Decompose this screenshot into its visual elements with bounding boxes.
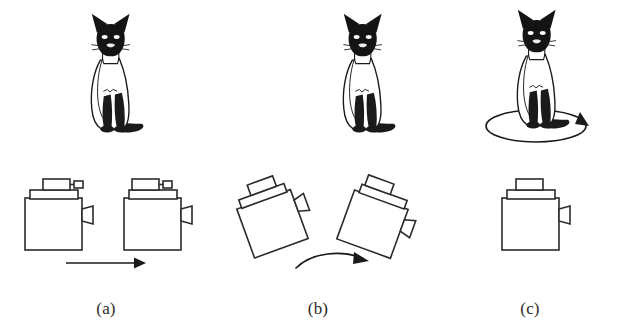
arc-arrow-head [353,252,369,264]
camera-top-box [43,179,70,190]
camera-top-plate [507,190,555,199]
camera-lens-flap [82,206,93,224]
camera-lens-flap [559,206,570,224]
cat-eye-right [114,35,120,39]
camera-body [25,198,82,250]
camera-viewfinder-nub [74,181,83,188]
camera-left [25,179,93,250]
cat-front-legs [529,91,539,124]
camera-viewfinder-nub [163,181,172,188]
arc-shaft [296,253,362,268]
cat-eye-left [102,35,108,39]
panel-c: (c) [424,0,636,327]
translation-arrow [66,258,146,269]
figure-root: (a) [0,0,636,327]
cat-paw-right [366,125,380,132]
camera-top-plate [129,190,177,199]
cat-paw-left [352,125,366,132]
camera-top-box [132,179,159,190]
panel-c-artwork [424,0,636,300]
cat-paw-left [526,121,540,128]
cat-eye-right [366,35,372,39]
camera-left-tilted [230,168,318,258]
siamese-cat-illustration [91,14,143,133]
panel-b-artwork [212,0,424,300]
cat-eye-left [528,31,534,35]
cat-paw-left [100,125,114,132]
camera-top-plate [30,190,78,199]
arrow-head [134,258,146,269]
camera-right [124,179,192,250]
camera-body [124,198,181,250]
cat-paw-right [114,125,128,132]
camera-body [502,198,559,250]
cat-front-legs [355,95,365,128]
panel-b: (b) [212,0,424,327]
panel-b-label: (b) [212,300,424,317]
panel-a-artwork [0,0,212,300]
rotation-arc-arrow [296,252,369,268]
rotation-arrow-head [575,112,589,126]
cat-eye-left [354,35,360,39]
cat-eye-right [540,31,546,35]
camera-lens-flap [181,206,192,224]
siamese-cat-illustration [517,10,569,129]
camera-center [502,179,570,250]
panel-a: (a) [0,0,212,327]
camera-right-tilted [337,172,424,262]
cat-paw-right [540,121,554,128]
camera-top-box [516,179,543,190]
cat-front-legs [103,95,113,128]
panel-c-label: (c) [424,300,636,317]
panel-a-label: (a) [0,300,212,317]
siamese-cat-illustration [343,14,395,133]
